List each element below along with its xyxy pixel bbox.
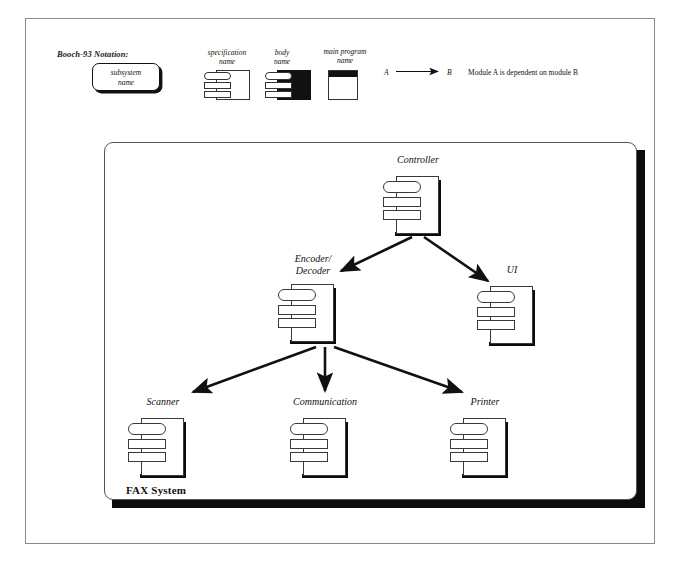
node-ui[interactable]: UI [477, 264, 547, 349]
node-encoder-decoder-label-line2: Decoder [296, 265, 330, 277]
legend-mainprogram-line2: name [312, 56, 378, 65]
node-printer-icon [450, 418, 520, 480]
legend-subsystem-line2: name [93, 78, 159, 88]
legend-subsystem-symbol: subsystem name [92, 63, 160, 91]
legend-arrow-source: A [384, 68, 389, 77]
legend-subsystem-line1: subsystem [93, 68, 159, 78]
node-scanner-icon [128, 418, 198, 480]
legend-arrow-target: B [447, 68, 452, 77]
diagram-page: Booch-93 Notation: subsystem name specif… [0, 0, 679, 563]
legend-subsystem-caption: subsystem name [93, 68, 159, 87]
node-scanner[interactable]: Scanner [128, 396, 198, 481]
legend-specification-caption: specification name [196, 48, 258, 66]
node-encoder-decoder-icon [278, 284, 348, 346]
node-communication-label: Communication [293, 396, 357, 408]
node-printer[interactable]: Printer [450, 396, 520, 481]
node-communication-icon [290, 418, 360, 480]
node-ui-icon [477, 286, 547, 348]
node-encoder-decoder[interactable]: Encoder/ Decoder [278, 253, 348, 348]
legend-body-line2: name [262, 57, 302, 66]
mainprogram-band [329, 71, 357, 77]
legend-mainprogram-icon [328, 70, 358, 100]
legend-specification-line2: name [196, 57, 258, 66]
node-scanner-label: Scanner [147, 396, 180, 408]
legend-mainprogram-caption: main program name [312, 47, 378, 65]
legend-arrow-description: Module A is dependent on module B [468, 68, 578, 77]
legend-specification-line1: specification [196, 48, 258, 57]
node-encoder-decoder-label: Encoder/ [295, 253, 332, 265]
legend-mainprogram-line1: main program [312, 47, 378, 56]
node-communication[interactable]: Communication [290, 396, 360, 481]
node-printer-label: Printer [471, 396, 500, 408]
node-controller-label: Controller [397, 154, 439, 166]
node-controller-icon [383, 176, 453, 238]
notation-title: Booch-93 Notation: [57, 49, 128, 59]
legend-body-caption: body name [262, 48, 302, 66]
legend-body-line1: body [262, 48, 302, 57]
fax-system-label: FAX System [126, 484, 186, 496]
legend-specification-icon [204, 70, 250, 100]
legend-body-icon [265, 70, 311, 100]
node-controller[interactable]: Controller [383, 154, 453, 239]
node-ui-label: UI [507, 264, 518, 276]
